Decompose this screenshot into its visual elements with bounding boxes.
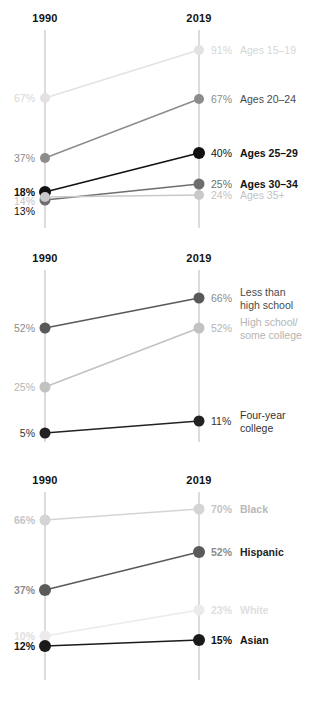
slope-chart-collection: 1990201967%91%Ages 15–1937%67%Ages 20–24… <box>0 0 315 702</box>
value-label-right-white: 23% <box>211 604 232 616</box>
series-label-white: White <box>240 604 269 617</box>
series-label-black: Black <box>240 503 268 516</box>
data-point-ages-25-29-right <box>193 147 205 159</box>
data-point-ages-35-plus-right <box>194 190 204 200</box>
value-label-left-high-school-some-college: 25% <box>14 381 35 393</box>
data-point-high-school-some-college-left <box>40 382 51 393</box>
value-label-right-high-school-some-college: 52% <box>211 322 232 334</box>
slope-chart-panel-3: 1990201966%70%Black37%52%Hispanic10%23%W… <box>0 462 315 702</box>
value-label-right-ages-20-24: 67% <box>211 93 232 105</box>
data-point-ages-15-19-right <box>194 45 204 55</box>
slope-line-less-than-high-school <box>45 298 199 328</box>
data-point-black-right <box>194 504 205 515</box>
slope-line-white <box>45 610 199 636</box>
slope-chart-panel-2: 1990201952%66%Less than high school25%52… <box>0 240 315 462</box>
data-point-less-than-high-school-right <box>194 293 205 304</box>
data-point-high-school-some-college-right <box>194 323 205 334</box>
series-label-ages-15-19: Ages 15–19 <box>240 44 296 57</box>
value-label-left-four-year-college: 5% <box>20 427 35 439</box>
value-label-right-black: 70% <box>211 503 232 515</box>
value-label-right-asian: 15% <box>211 634 232 646</box>
data-point-asian-left <box>39 640 51 652</box>
data-point-hispanic-right <box>193 546 205 558</box>
data-point-four-year-college-right <box>194 416 205 427</box>
value-label-right-hispanic: 52% <box>211 546 232 558</box>
value-label-left-hispanic: 37% <box>14 584 35 596</box>
series-label-ages-25-29: Ages 25–29 <box>240 147 298 160</box>
slope-lines <box>0 462 315 702</box>
value-label-right-ages-25-29: 40% <box>211 147 232 159</box>
value-label-right-ages-35-plus: 24% <box>211 189 232 201</box>
data-point-ages-20-24-right <box>194 94 204 104</box>
value-label-right-four-year-college: 11% <box>211 415 231 427</box>
series-label-less-than-high-school: Less than high school <box>240 286 293 311</box>
series-label-ages-20-24: Ages 20–24 <box>240 93 296 106</box>
slope-line-ages-20-24 <box>45 99 199 158</box>
data-point-black-left <box>40 515 51 526</box>
slope-line-ages-15-19 <box>45 50 199 98</box>
value-label-left-black: 66% <box>14 514 35 526</box>
data-point-four-year-college-left <box>40 428 51 439</box>
value-label-left-ages-15-19: 67% <box>14 92 35 104</box>
value-label-left-ages-20-24: 37% <box>14 152 35 164</box>
slope-chart-panel-1: 1990201967%91%Ages 15–1937%67%Ages 20–24… <box>0 0 315 240</box>
value-label-left-asian: 12% <box>14 640 35 652</box>
data-point-ages-15-19-left <box>40 93 50 103</box>
value-label-left-less-than-high-school: 52% <box>14 322 35 334</box>
data-point-less-than-high-school-left <box>40 323 51 334</box>
value-label-right-ages-15-19: 91% <box>211 44 232 56</box>
slope-line-black <box>45 509 199 520</box>
data-point-ages-20-24-left <box>40 153 50 163</box>
series-label-asian: Asian <box>240 634 269 647</box>
slope-line-four-year-college <box>45 421 199 433</box>
series-label-ages-35-plus: Ages 35+ <box>240 189 285 202</box>
slope-line-high-school-some-college <box>45 328 199 387</box>
series-label-four-year-college: Four-year college <box>240 409 286 434</box>
series-label-high-school-some-college: High school/ some college <box>240 316 302 341</box>
slope-line-asian <box>45 640 199 646</box>
series-label-hispanic: Hispanic <box>240 546 284 559</box>
data-point-ages-30-34-right <box>194 179 205 190</box>
data-point-white-right <box>194 605 205 616</box>
value-label-right-less-than-high-school: 66% <box>211 292 232 304</box>
slope-line-ages-35-plus <box>45 195 199 197</box>
slope-line-hispanic <box>45 552 199 590</box>
data-point-hispanic-left <box>39 584 51 596</box>
data-point-asian-right <box>193 634 205 646</box>
value-label-left-override-2: 13% <box>14 205 35 217</box>
data-point-ages-35-plus-left <box>40 192 50 202</box>
